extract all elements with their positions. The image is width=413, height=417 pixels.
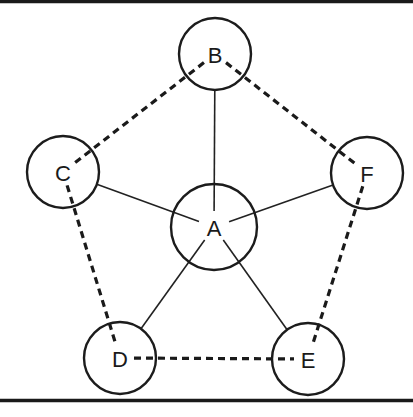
node-label-b: B: [208, 43, 223, 68]
graph-diagram: ABCFDE: [0, 0, 413, 417]
node-f: F: [331, 137, 403, 209]
node-label-e: E: [301, 348, 316, 373]
node-label-d: D: [112, 347, 128, 372]
node-label-f: F: [360, 162, 373, 187]
node-e: E: [272, 323, 344, 395]
dashed-edge-b-c: [74, 63, 204, 164]
dashed-edge-c-d: [67, 185, 116, 344]
dashed-edge-b-f: [226, 63, 356, 165]
node-b: B: [179, 18, 251, 90]
nodes: ABCFDE: [27, 18, 403, 395]
node-label-c: C: [55, 161, 71, 186]
node-a: A: [171, 184, 257, 270]
node-c: C: [27, 136, 99, 208]
node-d: D: [84, 322, 156, 394]
dashed-edge-f-e: [312, 186, 363, 345]
node-label-a: A: [207, 216, 222, 241]
dashed-edge-d-e: [134, 358, 294, 359]
